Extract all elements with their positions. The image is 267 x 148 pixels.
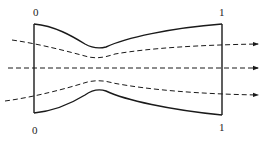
bottom-wall: [34, 90, 222, 115]
streamline-lower: [5, 81, 258, 101]
top-wall: [34, 24, 222, 48]
nozzle-diagram: 0 0 1 1: [0, 0, 267, 148]
label-inlet-bottom: 0: [32, 124, 38, 136]
label-inlet-top: 0: [33, 6, 39, 18]
label-outlet-bottom: 1: [219, 121, 225, 133]
label-outlet-top: 1: [219, 6, 225, 18]
streamline-upper: [12, 40, 258, 58]
